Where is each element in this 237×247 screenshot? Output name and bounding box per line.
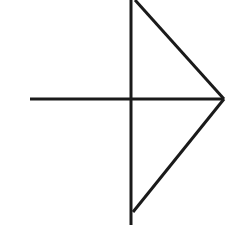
diagram-background [0, 0, 237, 247]
geometric-line-diagram [0, 0, 237, 247]
